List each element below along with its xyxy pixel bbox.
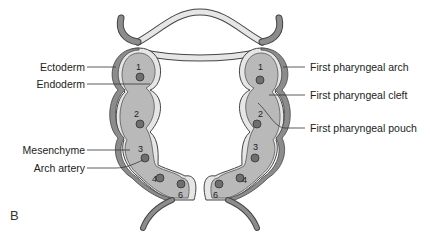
- panel-label: B: [10, 208, 19, 223]
- arch-artery-4: [156, 174, 164, 182]
- label-first-pharyngeal-cleft: First pharyngeal cleft: [310, 89, 408, 101]
- label-endoderm: Endoderm: [37, 78, 86, 90]
- left-arch-number-6: 6: [178, 190, 183, 200]
- right-arch-number-3: 3: [253, 142, 258, 152]
- pharyngeal-arches-diagram: 1 2 3 4 6 1 2 3 4 6 Ectoderm Endoderm: [0, 0, 430, 234]
- left-arch-number-3: 3: [138, 144, 143, 154]
- label-ectoderm: Ectoderm: [40, 61, 85, 73]
- arch-artery-3: [141, 154, 149, 162]
- right-arch-number-4: 4: [242, 175, 247, 185]
- right-arch-column: [204, 48, 290, 228]
- right-ectoderm-hook: [262, 18, 280, 42]
- label-first-pharyngeal-arch: First pharyngeal arch: [310, 61, 409, 73]
- arch-artery-6: [177, 180, 185, 188]
- left-arch-number-4: 4: [152, 174, 157, 184]
- label-first-pharyngeal-pouch: First pharyngeal pouch: [310, 122, 417, 134]
- left-arch-column: 1 2 3 4 6: [110, 48, 196, 228]
- left-arch-number-1: 1: [136, 62, 141, 72]
- pharynx-roof: [138, 12, 262, 58]
- label-mesenchyme: Mesenchyme: [23, 144, 86, 156]
- right-arch-number-6: 6: [213, 190, 218, 200]
- arch-artery-1: [136, 73, 144, 81]
- label-arch-artery: Arch artery: [34, 162, 86, 174]
- right-arch-number-2: 2: [258, 109, 263, 119]
- left-arch-number-2: 2: [134, 109, 139, 119]
- right-arch-number-1: 1: [258, 62, 263, 72]
- arch-artery-2: [136, 120, 144, 128]
- left-ectoderm-hook: [120, 18, 138, 42]
